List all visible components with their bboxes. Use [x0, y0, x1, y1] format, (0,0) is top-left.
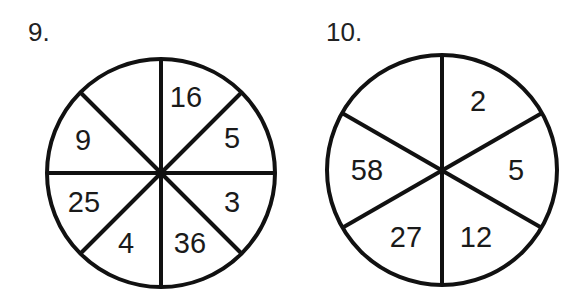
wheel-9-value-top-right: 16 [170, 81, 202, 113]
wheel-9-value-bottom-right: 36 [174, 227, 206, 259]
wheel-9-value-left-lower: 25 [68, 186, 100, 218]
wheel-9-value-right-lower: 3 [224, 186, 240, 218]
wheel-9 [47, 59, 275, 287]
wheel-9-value-bottom-left: 4 [118, 227, 134, 259]
wheel-9-value-right-upper: 5 [224, 122, 240, 154]
wheel-10-value-right: 5 [508, 154, 524, 186]
wheel-9-value-left-upper: 9 [75, 124, 91, 156]
number-wheels-diagram: 16 5 3 36 4 25 9 2 5 12 27 58 [0, 0, 582, 303]
wheel-10-value-top-right: 2 [470, 85, 486, 117]
wheel-10-value-bottom-left: 27 [390, 221, 422, 253]
wheel-10-value-left: 58 [351, 154, 383, 186]
wheel-10-value-bottom-right: 12 [460, 221, 492, 253]
